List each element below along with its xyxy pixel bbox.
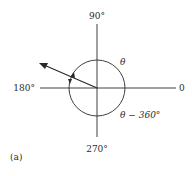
label-90: 90° [89, 11, 105, 21]
theta-arc-arrowhead-icon [70, 72, 75, 78]
label-270: 270° [86, 144, 108, 154]
label-0: 0 [179, 83, 185, 93]
label-180: 180° [13, 83, 35, 93]
label-theta: θ [120, 57, 126, 67]
angle-diagram: 90° 270° 180° 0 θ θ − 360° (a) [0, 0, 192, 176]
theta-minus-arc-arrowhead-icon [68, 79, 72, 84]
figure-caption: (a) [10, 152, 22, 162]
label-theta-minus-360: θ − 360° [120, 110, 160, 120]
